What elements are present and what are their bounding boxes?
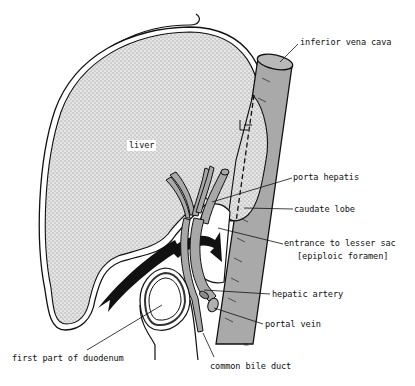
label-caudate-lobe: caudate lobe (294, 205, 355, 214)
label-hepatic-artery: hepatic artery (272, 290, 343, 299)
label-inferior-vena-cava: inferior vena cava (300, 38, 391, 47)
artist-signature: fd. (243, 343, 250, 347)
label-duodenum: first part of duodenum (12, 354, 124, 363)
label-porta-hepatis: porta hepatis (293, 173, 359, 182)
liver-anatomy-diagram (0, 0, 415, 386)
label-common-bile-duct: common bile duct (210, 362, 291, 371)
label-lesser-sac: entrance to lesser sac (284, 239, 396, 248)
label-liver: liver (127, 140, 156, 151)
label-epiploic-foramen: [epiploic foramen] (297, 252, 388, 261)
label-portal-vein: portal vein (265, 320, 321, 329)
